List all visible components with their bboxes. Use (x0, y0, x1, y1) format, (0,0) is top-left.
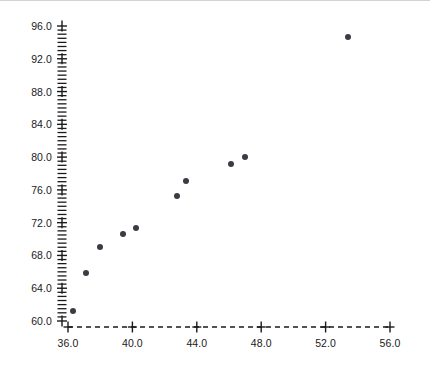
data-point (228, 161, 234, 167)
data-point (133, 225, 139, 231)
x-tick-label-5: 56.0 (380, 337, 401, 349)
plot-area: 60.064.068.072.076.080.084.088.092.096.0… (0, 0, 430, 370)
data-point (120, 231, 126, 237)
y-tick-label-4: 76.0 (8, 184, 52, 196)
y-tick-label-3: 72.0 (8, 217, 52, 229)
data-point (242, 154, 248, 160)
y-tick-label-5: 80.0 (8, 151, 52, 163)
data-point (345, 34, 351, 40)
data-point (97, 244, 103, 250)
data-point (70, 308, 76, 314)
x-tick-label-4: 52.0 (315, 337, 336, 349)
y-tick-label-7: 88.0 (8, 86, 52, 98)
x-tick-label-3: 48.0 (251, 337, 272, 349)
y-tick-label-1: 64.0 (8, 282, 52, 294)
data-point (174, 193, 180, 199)
x-tick-label-1: 40.0 (122, 337, 143, 349)
data-point (83, 270, 89, 276)
y-tick-label-6: 84.0 (8, 118, 52, 130)
y-tick-label-2: 68.0 (8, 249, 52, 261)
data-point (183, 178, 189, 184)
y-tick-label-8: 92.0 (8, 53, 52, 65)
x-tick-label-2: 44.0 (186, 337, 207, 349)
y-tick-label-9: 96.0 (8, 20, 52, 32)
y-tick-label-0: 60.0 (8, 315, 52, 327)
scatter-plot-figure: 60.064.068.072.076.080.084.088.092.096.0… (0, 0, 430, 370)
x-tick-label-0: 36.0 (58, 337, 79, 349)
